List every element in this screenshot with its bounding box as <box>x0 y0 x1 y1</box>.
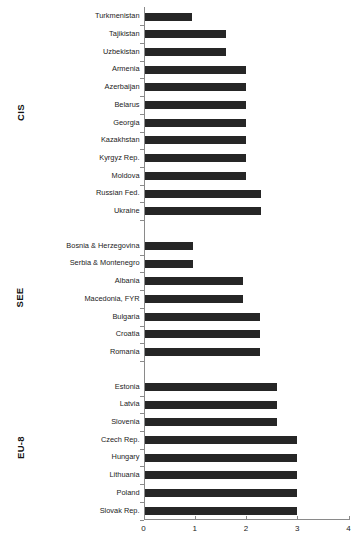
group-label-eu-8: EU-8 <box>0 442 40 453</box>
category-label: Moldova <box>112 172 140 180</box>
bar <box>144 119 247 127</box>
category-label: Albania <box>115 277 140 285</box>
category-label: Georgia <box>113 119 139 127</box>
category-label: Russian Fed. <box>96 189 140 197</box>
group-label-see: SEE <box>0 292 40 303</box>
category-label: Macedonia, FYR <box>84 295 139 303</box>
bar <box>144 13 193 21</box>
plot-area: TurkmenistanTajikistanUzbekistanArmeniaA… <box>0 0 359 559</box>
bar <box>144 242 194 250</box>
category-label: Kazakhstan <box>101 136 140 144</box>
bar <box>144 348 261 356</box>
y-axis-tick <box>140 520 144 521</box>
bar <box>144 471 298 479</box>
category-label: Bulgaria <box>112 313 139 321</box>
x-axis-tick-label: 0 <box>134 524 154 533</box>
category-label: Romania <box>110 348 140 356</box>
group-label-cis: CIS <box>0 107 40 118</box>
x-axis-tick-label: 4 <box>339 524 359 533</box>
group-label-text: EU-8 <box>14 436 25 459</box>
x-axis-tick <box>246 516 247 519</box>
category-label: Latvia <box>120 400 140 408</box>
category-label: Czech Rep. <box>101 436 140 444</box>
x-axis-line <box>144 519 350 520</box>
category-label: Kyrgyz Rep. <box>99 154 139 162</box>
bar <box>144 154 247 162</box>
group-label-text: CIS <box>15 104 26 121</box>
category-label: Azerbaijan <box>105 83 140 91</box>
category-label: Lithuania <box>110 471 140 479</box>
bar <box>144 295 244 303</box>
x-axis-tick-label: 2 <box>236 524 256 533</box>
bar <box>144 207 262 215</box>
bar <box>144 383 277 391</box>
category-label: Poland <box>116 489 139 497</box>
category-label: Armenia <box>112 65 140 73</box>
bar <box>144 277 244 285</box>
category-label: Turkmenistan <box>95 12 140 20</box>
bar <box>144 190 262 198</box>
category-label: Estonia <box>115 383 140 391</box>
category-label: Serbia & Montenegro <box>70 259 140 267</box>
bar-chart: TurkmenistanTajikistanUzbekistanArmeniaA… <box>0 0 359 559</box>
category-label: Croatia <box>116 330 140 338</box>
x-axis-tick-label: 1 <box>185 524 205 533</box>
bar <box>144 330 261 338</box>
bar <box>144 313 261 321</box>
category-label: Bosnia & Herzegovina <box>66 242 139 250</box>
category-label: Slovenia <box>111 418 139 426</box>
category-label: Hungary <box>112 453 140 461</box>
x-axis-tick <box>195 516 196 519</box>
bar <box>144 436 298 444</box>
bar <box>144 66 247 74</box>
bar <box>144 401 277 409</box>
category-label: Belarus <box>114 101 139 109</box>
x-axis-tick <box>349 516 350 519</box>
bar <box>144 30 226 38</box>
bar <box>144 454 298 462</box>
group-label-text: SEE <box>14 288 25 308</box>
x-axis-tick <box>297 516 298 519</box>
x-axis-tick-label: 3 <box>287 524 307 533</box>
category-label: Slovak Rep. <box>100 507 140 515</box>
bar <box>144 507 298 515</box>
category-label: Uzbekistan <box>103 48 140 56</box>
category-label: Tajikistan <box>109 30 139 38</box>
y-axis-line <box>144 7 145 519</box>
bar <box>144 101 247 109</box>
category-label: Ukraine <box>114 207 139 215</box>
bar <box>144 418 277 426</box>
bar <box>144 260 194 268</box>
bar <box>144 83 247 91</box>
bar <box>144 48 226 56</box>
bar <box>144 172 247 180</box>
bar <box>144 489 298 497</box>
bar <box>144 136 247 144</box>
x-axis-tick <box>144 516 145 519</box>
